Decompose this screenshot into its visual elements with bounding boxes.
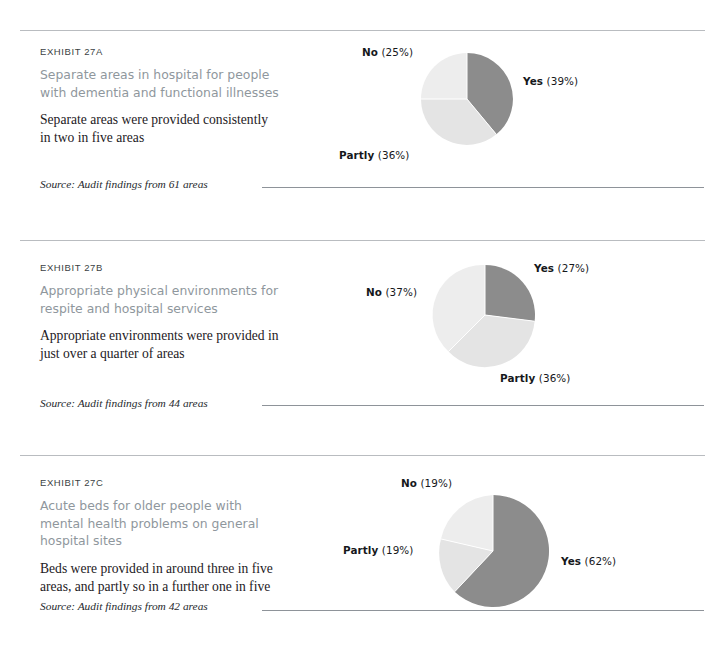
chart-baseline-rule-27a (262, 187, 704, 188)
exhibit-source-27c: Source: Audit findings from 42 areas (40, 600, 208, 612)
exhibit-body-text: Beds were provided in around three in fi… (40, 560, 280, 596)
pie-label-name: No (401, 477, 417, 489)
pie-label-percent: (39%) (547, 75, 579, 87)
pie-label-name: No (362, 46, 378, 58)
pie-label-no-27b: No (37%) (366, 286, 417, 298)
pie-label-name: Yes (561, 555, 581, 567)
section-divider-top (20, 30, 705, 31)
exhibit-source-27b: Source: Audit findings from 44 areas (40, 397, 208, 409)
exhibit-text-column: EXHIBIT 27B Appropriate physical environ… (40, 262, 280, 363)
pie-label-yes-27b: Yes (27%) (534, 262, 589, 274)
chart-baseline-rule-27b (262, 405, 704, 406)
pie-label-yes-27c: Yes (62%) (561, 555, 616, 567)
pie-chart-27a (421, 53, 513, 145)
pie-label-no-27a: No (25%) (362, 46, 413, 58)
chart-baseline-rule-27c (262, 610, 704, 611)
exhibit-text-column: EXHIBIT 27C Acute beds for older people … (40, 477, 280, 596)
pie-slice-no (421, 53, 467, 99)
pie-label-name: Partly (343, 544, 378, 556)
pie-chart-27b (435, 265, 535, 365)
pie-label-name: Yes (523, 75, 543, 87)
pie-chart-27c (437, 495, 549, 607)
pie-label-percent: (37%) (385, 286, 417, 298)
document-page: EXHIBIT 27A Separate areas in hospital f… (0, 0, 725, 655)
exhibit-title: Appropriate physical environments for re… (40, 282, 280, 317)
exhibit-source-27a: Source: Audit findings from 61 areas (40, 178, 208, 190)
pie-label-percent: (62%) (585, 555, 617, 567)
exhibit-text-column: EXHIBIT 27A Separate areas in hospital f… (40, 46, 280, 147)
pie-chart-27b-svg (435, 265, 535, 365)
pie-label-yes-27a: Yes (39%) (523, 75, 578, 87)
pie-label-percent: (27%) (558, 262, 590, 274)
pie-slice-yes (485, 265, 535, 321)
pie-label-percent: (19%) (382, 544, 414, 556)
exhibit-label: EXHIBIT 27A (40, 46, 280, 57)
pie-label-name: Partly (339, 149, 374, 161)
exhibit-label: EXHIBIT 27B (40, 262, 280, 273)
exhibit-body-text: Appropriate environments were provided i… (40, 327, 280, 363)
pie-label-percent: (25%) (381, 46, 413, 58)
exhibit-body-text: Separate areas were provided consistentl… (40, 111, 280, 147)
pie-label-percent: (19%) (420, 477, 452, 489)
pie-label-name: No (366, 286, 382, 298)
section-divider-2 (20, 455, 705, 456)
pie-label-partly-27b: Partly (36%) (500, 372, 570, 384)
pie-label-name: Yes (534, 262, 554, 274)
exhibit-title: Separate areas in hospital for people wi… (40, 66, 280, 101)
pie-chart-27a-svg (421, 53, 513, 145)
pie-label-no-27c: No (19%) (401, 477, 452, 489)
pie-label-partly-27c: Partly (19%) (343, 544, 413, 556)
pie-label-partly-27a: Partly (36%) (339, 149, 409, 161)
pie-label-percent: (36%) (378, 149, 410, 161)
pie-label-percent: (36%) (539, 372, 571, 384)
pie-label-name: Partly (500, 372, 535, 384)
exhibit-label: EXHIBIT 27C (40, 477, 280, 488)
exhibit-title: Acute beds for older people with mental … (40, 497, 280, 550)
section-divider-1 (20, 240, 705, 241)
pie-chart-27c-svg (437, 495, 549, 607)
